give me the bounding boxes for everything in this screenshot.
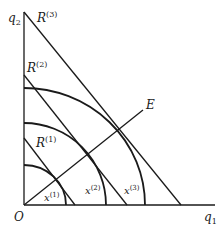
isoquant-diagram: q2 q1 O R(3) R(2) R(1) x(1) x(2) x(3) E xyxy=(0,0,223,227)
isoquant-x1-label: x(1) xyxy=(44,191,60,203)
expansion-path-label: E xyxy=(145,98,155,112)
budget-line-r3-label: R(3) xyxy=(36,10,57,25)
budget-line-r1-label: R(1) xyxy=(35,135,56,150)
isoquant-x2-label: x(2) xyxy=(85,184,101,196)
origin-label: O xyxy=(14,210,24,224)
budget-line-r3 xyxy=(24,12,181,205)
budget-line-r2-label: R(2) xyxy=(26,60,47,75)
isoquant-x3-label: x(3) xyxy=(124,184,140,196)
y-axis-label: q2 xyxy=(8,11,21,27)
x-axis-label: q1 xyxy=(204,210,217,226)
